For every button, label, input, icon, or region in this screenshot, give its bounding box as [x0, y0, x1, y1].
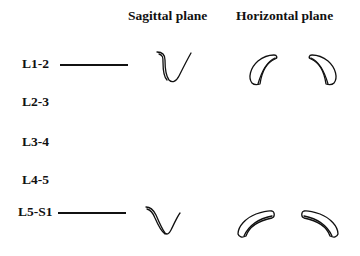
sagittal-shape-l5-s1	[144, 203, 184, 237]
sagittal-plane-header: Sagittal plane	[128, 8, 207, 24]
horizontal-shape-right-l5-s1	[300, 208, 344, 240]
level-label-l2-3: L2-3	[22, 94, 49, 110]
horizontal-shape-left-l5-s1	[232, 208, 276, 240]
level-label-l3-4: L3-4	[22, 134, 49, 150]
horizontal-plane-header: Horizontal plane	[236, 8, 333, 24]
sagittal-shape-l1-2	[155, 50, 195, 86]
level-label-l5-s1: L5-S1	[18, 204, 53, 220]
indicator-line-l5-s1	[58, 212, 126, 214]
horizontal-shape-right-l1-2	[306, 52, 342, 88]
level-label-l1-2: L1-2	[22, 56, 49, 72]
horizontal-shape-left-l1-2	[244, 52, 280, 88]
level-label-l4-5: L4-5	[22, 172, 49, 188]
indicator-line-l1-2	[60, 64, 128, 66]
